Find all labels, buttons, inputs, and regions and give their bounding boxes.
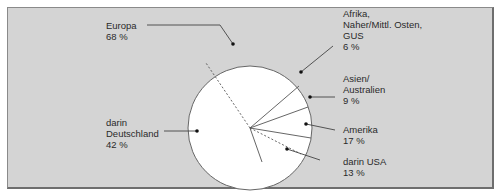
label-europa: Europa 68 % bbox=[106, 20, 137, 42]
label-asien: Asien/ Australien 9 % bbox=[343, 73, 385, 106]
label-amerika: Amerika 17 % bbox=[343, 124, 378, 146]
pie-chart bbox=[0, 0, 502, 196]
label-usa: darin USA 13 % bbox=[343, 156, 386, 178]
label-afrika: Afrika, Naher/Mittl. Osten, GUS 6 % bbox=[343, 8, 422, 52]
label-deutschland: darin Deutschland 42 % bbox=[106, 117, 159, 150]
